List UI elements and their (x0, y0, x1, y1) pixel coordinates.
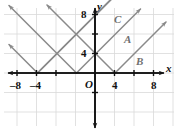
x-tick-label--4: –4 (30, 80, 41, 91)
y-axis (92, 8, 98, 128)
curve-label-a: A (124, 34, 131, 45)
x-tick-label-4: 4 (112, 80, 118, 91)
plot-area (0, 0, 178, 138)
y-tick-label-8: 8 (81, 9, 87, 20)
curve-label-c: C (114, 14, 121, 25)
curve-label-b: B (136, 56, 143, 67)
x-axis (8, 70, 164, 76)
y-tick-label-4: 4 (81, 48, 87, 59)
coordinate-graph: –8 –4 4 8 4 8 O y x C A B (0, 0, 178, 138)
origin-label: O (85, 79, 93, 90)
x-tick-label--8: –8 (10, 80, 21, 91)
y-axis-label: y (97, 1, 102, 12)
x-tick-label-8: 8 (151, 80, 157, 91)
curve-b (47, 5, 166, 73)
x-axis-label: x (166, 63, 172, 74)
